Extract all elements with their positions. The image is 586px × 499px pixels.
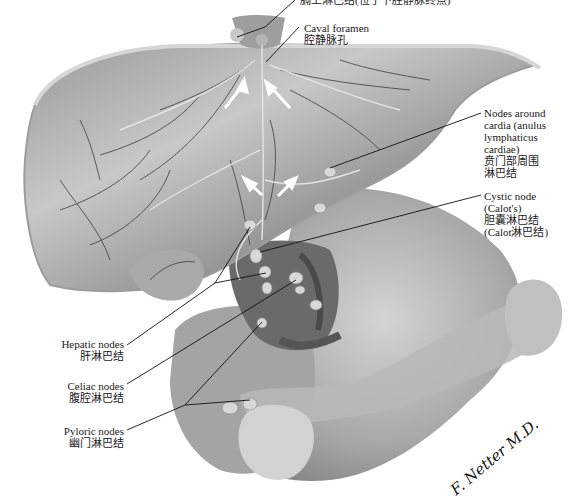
label-zh-line: 胆囊淋巴结 bbox=[484, 214, 548, 226]
label-zh-line: 淋巴结 bbox=[484, 167, 546, 179]
label-zh: 膈上淋巴结(位于下腔静脉终点) bbox=[300, 0, 450, 6]
label-en-line: cardia (anulus bbox=[484, 119, 546, 131]
label-zh: 肝淋巴结 bbox=[61, 350, 124, 362]
label-en-line: cardiae) bbox=[484, 143, 546, 155]
label-en-line: lymphaticus bbox=[484, 131, 546, 143]
label-zh: 幽门淋巴结 bbox=[64, 437, 124, 449]
label-caval-foramen: Caval foramen 腔静脉孔 bbox=[304, 22, 369, 46]
label-en: Hepatic nodes bbox=[61, 338, 124, 350]
label-superior-phrenic-nodes: 膈上淋巴结(位于下腔静脉终点) bbox=[300, 0, 450, 6]
label-hepatic-nodes: Hepatic nodes 肝淋巴结 bbox=[61, 338, 124, 362]
label-zh: 腔静脉孔 bbox=[304, 34, 369, 46]
label-celiac-nodes: Celiac nodes 腹腔淋巴结 bbox=[67, 380, 124, 404]
label-cystic-node: Cystic node (Calot's) 胆囊淋巴结 (Calot淋巴结) bbox=[484, 190, 548, 238]
label-nodes-around-cardia: Nodes around cardia (anulus lymphaticus … bbox=[484, 107, 546, 179]
label-en: Pyloric nodes bbox=[64, 425, 124, 437]
label-en: Celiac nodes bbox=[67, 380, 124, 392]
label-zh: 腹腔淋巴结 bbox=[67, 392, 124, 404]
label-zh-line: (Calot淋巴结) bbox=[484, 226, 548, 238]
label-zh-line: 贲门部周围 bbox=[484, 155, 546, 167]
spleen bbox=[505, 280, 562, 356]
label-pyloric-nodes: Pyloric nodes 幽门淋巴结 bbox=[64, 425, 124, 449]
label-en-line: Cystic node bbox=[484, 190, 548, 202]
label-en-line: Nodes around bbox=[484, 107, 546, 119]
label-en: Caval foramen bbox=[304, 22, 369, 34]
superior-phrenic-node-right bbox=[256, 34, 268, 46]
label-en-line: (Calot's) bbox=[484, 202, 548, 214]
